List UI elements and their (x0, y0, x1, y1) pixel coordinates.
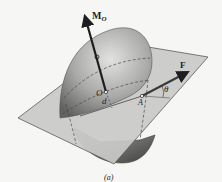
moment-label: MO (92, 10, 107, 23)
point-a-label: A (137, 98, 143, 107)
distance-label: d (102, 96, 107, 106)
figure-caption: (a) (104, 173, 114, 182)
origin-point (104, 90, 107, 93)
moment-diagram: MO O d A F θ (a) (0, 0, 222, 182)
angle-label: θ (164, 84, 169, 94)
force-label: F (180, 60, 186, 70)
